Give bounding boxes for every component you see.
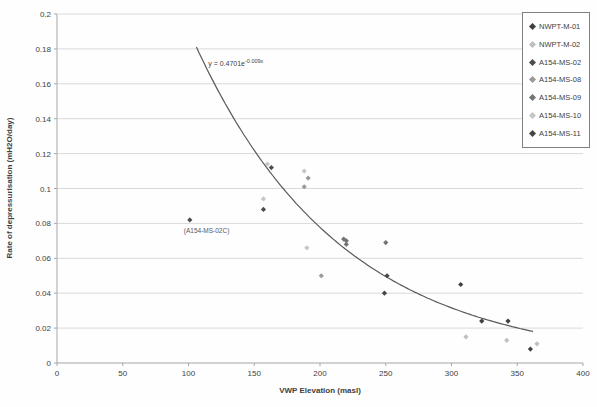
legend-label: NWPT-M-01 — [539, 22, 580, 31]
legend-label: A154-MS-02 — [539, 58, 581, 67]
legend-label: A154-MS-09 — [539, 93, 581, 102]
legend-item-a154-ms-08: A154-MS-08 — [530, 74, 587, 86]
x-tick-label: 150 — [248, 369, 262, 378]
data-point — [306, 175, 311, 180]
y-axis-ticks: 00.020.040.060.080.10.120.140.160.180.2 — [35, 10, 57, 368]
diamond-marker-icon — [529, 59, 536, 66]
gridlines — [58, 14, 583, 328]
y-tick-label: 0.16 — [35, 80, 51, 89]
data-point — [187, 217, 192, 222]
data-point — [383, 240, 388, 245]
legend-label: A154-MS-11 — [539, 129, 581, 138]
legend-label: A154-MS-08 — [539, 75, 581, 84]
data-point — [304, 245, 309, 250]
data-point — [302, 168, 307, 173]
diamond-marker-icon — [529, 112, 536, 119]
legend-item-a154-ms-09: A154-MS-09 — [530, 92, 587, 104]
x-tick-label: 50 — [118, 369, 127, 378]
x-tick-label: 250 — [379, 369, 393, 378]
legend-label: NWPT-M-02 — [539, 40, 580, 49]
data-point — [382, 291, 387, 296]
chart-legend: NWPT-M-01NWPT-M-02A154-MS-02A154-MS-08A1… — [522, 12, 590, 148]
x-axis-ticks: 050100150200250300350400 — [55, 363, 590, 378]
diamond-marker-icon — [529, 41, 536, 48]
x-tick-label: 350 — [511, 369, 525, 378]
legend-item-nwpt-m-02: NWPT-M-02 — [530, 39, 587, 51]
legend-item-nwpt-m-01: NWPT-M-01 — [530, 21, 587, 33]
exponential-trendline — [196, 47, 533, 331]
y-tick-label: 0 — [47, 359, 52, 368]
scatter-chart: 05010015020025030035040000.020.040.060.0… — [0, 0, 597, 407]
y-tick-label: 0.08 — [35, 219, 51, 228]
y-tick-label: 0.04 — [35, 289, 51, 298]
point-annotation: (A154-MS-02C) — [184, 227, 230, 235]
series-a154-ms-10 — [261, 161, 310, 250]
x-tick-label: 100 — [182, 369, 196, 378]
diamond-marker-icon — [529, 23, 536, 30]
data-point — [269, 165, 274, 170]
data-point — [261, 207, 266, 212]
data-point — [344, 242, 349, 247]
y-tick-label: 0.2 — [40, 10, 52, 19]
y-tick-label: 0.1 — [40, 185, 52, 194]
data-point — [319, 273, 324, 278]
y-axis-title: Rate of depressurisation (mH2O/day) — [5, 118, 14, 259]
data-point — [504, 338, 509, 343]
x-tick-label: 200 — [313, 369, 327, 378]
y-tick-label: 0.12 — [35, 150, 51, 159]
trendline-equation: y = 0.4701e-0.009x — [208, 58, 263, 68]
data-point — [528, 346, 533, 351]
series-a154-ms-11 — [382, 273, 533, 351]
x-tick-label: 0 — [55, 369, 60, 378]
x-tick-label: 300 — [445, 369, 459, 378]
series-nwpt-m-02 — [463, 334, 539, 346]
series-a154-ms-09 — [341, 237, 388, 247]
legend-label: A154-MS-10 — [539, 111, 581, 120]
data-point — [261, 196, 266, 201]
y-tick-label: 0.14 — [35, 115, 51, 124]
legend-item-a154-ms-11: A154-MS-11 — [530, 127, 587, 139]
legend-item-a154-ms-02: A154-MS-02 — [530, 56, 587, 68]
series-a154-ms-08 — [302, 175, 324, 278]
data-point — [463, 334, 468, 339]
x-axis-title: VWP Elevation (masl) — [57, 386, 583, 395]
diamond-marker-icon — [529, 76, 536, 83]
data-point — [458, 282, 463, 287]
series-nwpt-m-01 — [458, 282, 511, 324]
data-point — [505, 319, 510, 324]
diamond-marker-icon — [529, 130, 536, 137]
chart-plot-area: 05010015020025030035040000.020.040.060.0… — [0, 0, 597, 407]
legend-item-a154-ms-10: A154-MS-10 — [530, 109, 587, 121]
data-point — [534, 341, 539, 346]
series-a154-ms-02 — [187, 165, 274, 223]
y-tick-label: 0.18 — [35, 45, 51, 54]
data-point — [384, 273, 389, 278]
diamond-marker-icon — [529, 94, 536, 101]
y-tick-label: 0.02 — [35, 324, 51, 333]
y-tick-label: 0.06 — [35, 254, 51, 263]
x-tick-label: 400 — [576, 369, 590, 378]
